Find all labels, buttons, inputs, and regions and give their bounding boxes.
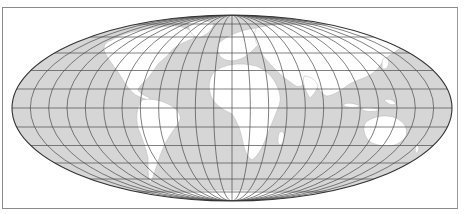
australia [364, 116, 407, 146]
world-map [0, 0, 464, 214]
graticule [0, 15, 464, 201]
mollweide-projection [0, 0, 464, 214]
